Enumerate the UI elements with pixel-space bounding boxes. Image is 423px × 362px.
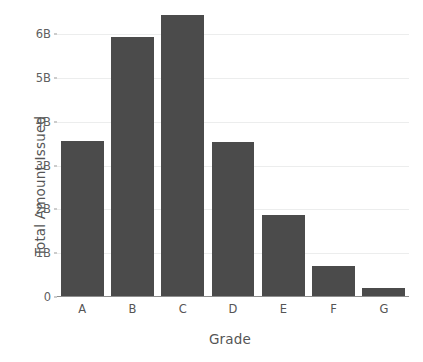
x-axis-line: [57, 296, 409, 297]
y-axis-title: Total Amount Issued: [32, 66, 48, 306]
plot-area: 01B2B3B4B5B6B ABCDEFG: [57, 8, 409, 297]
x-tick-label: A: [78, 302, 86, 316]
y-tick-label: 0: [44, 290, 51, 304]
y-tick-label: 4B: [36, 115, 51, 129]
y-tick-label: 6B: [36, 27, 51, 41]
x-tick-label: F: [330, 302, 337, 316]
bar: [262, 215, 305, 297]
x-axis-title: Grade: [55, 331, 405, 347]
bar-series: [57, 8, 409, 297]
y-tick-label: 3B: [36, 159, 51, 173]
x-tick-label: D: [229, 302, 238, 316]
bar: [111, 37, 154, 297]
bar: [312, 266, 355, 297]
y-tick-label: 2B: [36, 202, 51, 216]
bar: [212, 142, 255, 297]
x-tick-label: E: [280, 302, 287, 316]
bar: [61, 141, 104, 297]
bar-chart-figure: Total Amount Issued 01B2B3B4B5B6B ABCDEF…: [0, 0, 423, 362]
x-tick-label: C: [179, 302, 187, 316]
x-tick-label: B: [128, 302, 136, 316]
bar: [161, 15, 204, 297]
x-tick-label: G: [379, 302, 388, 316]
y-tick-label: 5B: [36, 71, 51, 85]
y-tick-label: 1B: [36, 246, 51, 260]
